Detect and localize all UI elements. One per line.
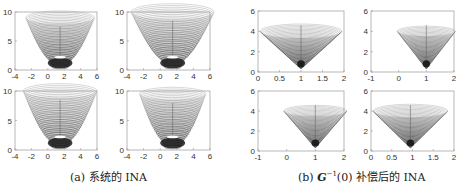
svg-text:2: 2: [175, 72, 180, 81]
svg-text:0: 0: [120, 66, 125, 75]
plot-b-bottom-right: 00.511.520246: [371, 91, 454, 151]
svg-text:2: 2: [364, 127, 369, 136]
svg-text:0: 0: [8, 146, 13, 155]
svg-text:-2: -2: [140, 152, 148, 161]
svg-text:6: 6: [208, 72, 213, 81]
svg-text:4: 4: [78, 72, 83, 81]
svg-text:0: 0: [251, 147, 256, 156]
plot-a-top-left: -4-202460510: [15, 12, 97, 70]
svg-text:-2: -2: [140, 72, 148, 81]
plot-b-top-right: -10120246: [371, 11, 454, 72]
svg-text:6: 6: [95, 72, 100, 81]
contour-plot: -4-202460510: [127, 12, 210, 70]
svg-text:-2: -2: [28, 152, 36, 161]
svg-text:-4: -4: [123, 72, 131, 81]
svg-text:1: 1: [424, 74, 429, 83]
caption-b-math: G: [317, 171, 326, 184]
contour-plot: -4-202460510: [15, 12, 97, 70]
svg-text:0.5: 0.5: [386, 153, 398, 162]
contour-plot: 00.511.520246: [258, 11, 344, 72]
svg-text:5: 5: [120, 117, 125, 126]
svg-text:4: 4: [78, 152, 83, 161]
svg-text:2: 2: [342, 74, 347, 83]
plot-a-top-right: -4-202460510: [127, 12, 210, 70]
svg-text:4: 4: [251, 27, 256, 36]
svg-text:10: 10: [3, 8, 12, 17]
svg-text:-1: -1: [254, 153, 262, 162]
contour-plot: -10120246: [258, 91, 344, 151]
plot-b-top-left: 00.511.520246: [258, 11, 344, 72]
caption-b-sup: −1: [327, 170, 337, 178]
svg-text:2: 2: [452, 153, 457, 162]
svg-text:10: 10: [3, 87, 12, 96]
svg-text:2: 2: [452, 74, 457, 83]
svg-text:1.5: 1.5: [317, 74, 329, 83]
caption-b: (b) G−1(0) 补偿后的 INA: [298, 168, 425, 184]
svg-text:-4: -4: [11, 72, 19, 81]
svg-text:10: 10: [115, 87, 124, 96]
svg-text:1: 1: [313, 153, 318, 162]
plot-a-bottom-left: -4-202460510: [15, 91, 97, 150]
contour-plot: -4-202460510: [127, 91, 210, 150]
svg-text:2: 2: [62, 72, 67, 81]
svg-text:0: 0: [256, 74, 261, 83]
svg-text:10: 10: [115, 8, 124, 17]
svg-text:5: 5: [8, 117, 13, 126]
svg-text:0.5: 0.5: [274, 74, 286, 83]
svg-text:0: 0: [396, 74, 401, 83]
svg-text:-2: -2: [28, 72, 36, 81]
svg-text:0: 0: [284, 153, 289, 162]
svg-text:5: 5: [120, 37, 125, 46]
svg-text:4: 4: [364, 27, 369, 36]
svg-text:6: 6: [208, 152, 213, 161]
svg-text:4: 4: [191, 152, 196, 161]
svg-text:0: 0: [364, 68, 369, 77]
svg-text:0: 0: [251, 68, 256, 77]
plot-b-bottom-left: -10120246: [258, 91, 344, 151]
svg-text:0: 0: [46, 152, 51, 161]
svg-text:0: 0: [158, 72, 163, 81]
svg-text:2: 2: [251, 127, 256, 136]
svg-text:0: 0: [369, 153, 374, 162]
svg-text:6: 6: [364, 7, 369, 16]
svg-text:2: 2: [62, 152, 67, 161]
svg-text:0: 0: [364, 147, 369, 156]
plot-a-bottom-right: -4-202460510: [127, 91, 210, 150]
contour-plot: 00.511.520246: [371, 91, 454, 151]
svg-text:0: 0: [120, 146, 125, 155]
svg-text:2: 2: [175, 152, 180, 161]
svg-text:2: 2: [251, 48, 256, 57]
svg-text:-4: -4: [123, 152, 131, 161]
svg-text:4: 4: [251, 107, 256, 116]
caption-b-text: 补偿后的 INA: [356, 171, 425, 184]
svg-text:6: 6: [364, 87, 369, 96]
svg-text:4: 4: [191, 72, 196, 81]
svg-text:6: 6: [95, 152, 100, 161]
svg-text:0: 0: [46, 72, 51, 81]
svg-text:1: 1: [410, 153, 415, 162]
svg-text:5: 5: [8, 37, 13, 46]
svg-text:0: 0: [158, 152, 163, 161]
svg-text:6: 6: [251, 87, 256, 96]
svg-text:-1: -1: [367, 74, 375, 83]
svg-text:0: 0: [8, 66, 13, 75]
caption-a-label: (a): [70, 171, 85, 184]
svg-text:4: 4: [364, 107, 369, 116]
svg-text:6: 6: [251, 7, 256, 16]
svg-text:2: 2: [364, 48, 369, 57]
caption-a: (a) 系统的 INA: [70, 168, 147, 184]
caption-b-label: (b): [298, 171, 314, 184]
svg-text:2: 2: [342, 153, 347, 162]
caption-b-arg: (0): [337, 171, 353, 184]
svg-text:-4: -4: [11, 152, 19, 161]
svg-text:1: 1: [299, 74, 304, 83]
contour-plot: -4-202460510: [15, 91, 97, 150]
svg-text:1.5: 1.5: [428, 153, 440, 162]
caption-a-text: 系统的 INA: [89, 171, 147, 184]
contour-plot: -10120246: [371, 11, 454, 72]
